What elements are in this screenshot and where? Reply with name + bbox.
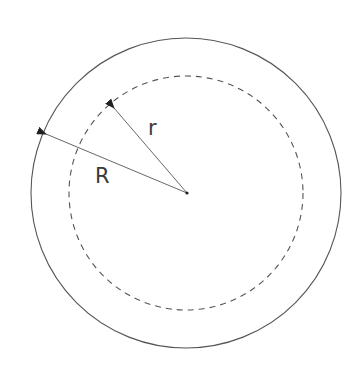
outer-radius-label: R	[95, 164, 110, 188]
center-point	[185, 191, 188, 194]
inner-radius-label: r	[148, 116, 157, 140]
concentric-circles-diagram: R r	[0, 0, 355, 368]
outer-radius-arrow	[46, 134, 187, 193]
